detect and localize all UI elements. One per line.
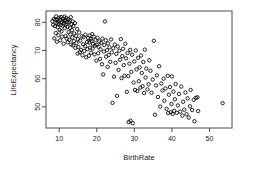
data-point: [190, 108, 193, 111]
data-point: [72, 32, 75, 35]
data-point: [133, 60, 136, 63]
data-point: [221, 101, 224, 104]
data-point: [180, 85, 183, 88]
data-point: [131, 122, 134, 125]
data-point: [156, 95, 159, 98]
data-point: [145, 67, 148, 70]
data-point: [181, 114, 184, 117]
data-point: [128, 62, 131, 65]
x-tick-label: 20: [93, 135, 101, 142]
data-point: [155, 74, 158, 77]
data-point: [140, 71, 143, 74]
data-point: [153, 113, 156, 116]
y-tick-label: 50: [35, 103, 42, 111]
data-point: [127, 74, 130, 77]
data-point: [93, 53, 96, 56]
x-axis-ticks: 1020304050: [55, 128, 213, 142]
data-point: [117, 68, 120, 71]
data-point: [112, 47, 115, 50]
data-point: [84, 33, 87, 36]
data-point: [134, 49, 137, 52]
data-point: [106, 65, 109, 68]
data-point: [75, 41, 78, 44]
data-point: [116, 45, 119, 48]
data-point: [115, 52, 118, 55]
data-point: [154, 84, 157, 87]
data-point: [170, 75, 173, 78]
data-point: [165, 107, 168, 110]
data-point: [105, 48, 108, 51]
data-point: [96, 36, 99, 39]
data-point: [174, 82, 177, 85]
data-point: [126, 51, 129, 54]
data-point: [101, 37, 104, 40]
y-axis-title: LifeExpectancy: [9, 44, 18, 95]
y-tick-label: 80: [35, 18, 42, 26]
data-point: [142, 60, 145, 63]
data-point: [118, 49, 121, 52]
data-point: [166, 74, 169, 77]
x-tick-label: 10: [55, 135, 63, 142]
y-tick-label: 70: [35, 46, 42, 54]
data-point: [148, 59, 151, 62]
data-point: [128, 48, 131, 51]
data-point: [189, 88, 192, 91]
data-point: [170, 102, 173, 105]
data-point: [60, 35, 63, 38]
data-point: [89, 51, 92, 54]
data-point: [177, 92, 180, 95]
data-point: [53, 37, 56, 40]
x-axis-title: BirthRate: [123, 153, 154, 162]
data-point: [188, 105, 191, 108]
data-point: [110, 51, 113, 54]
data-point: [172, 90, 175, 93]
data-point: [112, 75, 115, 78]
data-point: [70, 28, 73, 31]
data-point: [75, 27, 78, 30]
data-point: [163, 99, 166, 102]
data-point: [108, 46, 111, 49]
data-point: [187, 116, 190, 119]
data-point: [124, 57, 127, 60]
data-point-group: [51, 15, 225, 125]
data-point: [62, 42, 65, 45]
x-tick-label: 40: [168, 135, 176, 142]
data-point: [69, 16, 72, 19]
data-point: [111, 101, 114, 104]
data-point: [59, 39, 62, 42]
data-point: [186, 97, 189, 100]
data-point: [147, 83, 150, 86]
data-point: [183, 108, 186, 111]
data-point: [167, 93, 170, 96]
data-point: [130, 53, 133, 56]
data-point: [118, 58, 121, 61]
data-point: [196, 109, 199, 112]
data-point: [57, 34, 60, 37]
data-point: [144, 76, 147, 79]
data-point: [139, 54, 142, 57]
data-point: [150, 91, 153, 94]
data-point: [152, 39, 155, 42]
data-point: [109, 60, 112, 63]
data-point: [103, 20, 106, 23]
data-point: [121, 54, 124, 57]
data-point: [114, 61, 117, 64]
data-point: [74, 34, 77, 37]
data-point: [181, 100, 184, 103]
data-point: [94, 38, 97, 41]
data-point: [168, 85, 171, 88]
data-point: [125, 90, 128, 93]
data-point: [175, 111, 178, 114]
data-point: [81, 54, 84, 57]
data-point: [173, 98, 176, 101]
data-point: [159, 105, 162, 108]
data-point: [115, 94, 118, 97]
x-tick-label: 50: [206, 135, 214, 142]
data-point: [160, 82, 163, 85]
data-point: [104, 39, 107, 42]
data-point: [151, 78, 154, 81]
data-point: [121, 47, 124, 50]
scatter-plot-figure: 1020304050 50607080 BirthRate LifeExpect…: [0, 0, 255, 171]
data-point: [162, 77, 165, 80]
data-point: [157, 65, 160, 68]
